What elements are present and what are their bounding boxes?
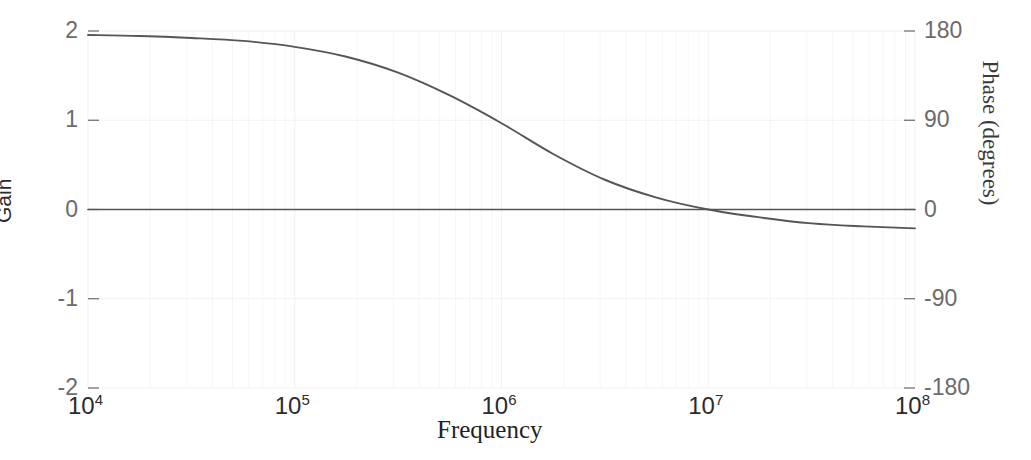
right-tick-label: -180: [924, 376, 994, 399]
x-axis-title: Frequency: [437, 417, 543, 442]
x-tick-label: 108: [895, 394, 930, 418]
left-tick-label: 1: [16, 108, 78, 131]
x-tick-exponent: 8: [922, 391, 930, 408]
x-tick-exponent: 4: [95, 391, 103, 408]
left-axis-title: Gain: [0, 197, 71, 223]
bode-plot-figure: 210-1-2 180900-90-180 104105106107108 Ga…: [0, 0, 1031, 460]
left-tick-label: -1: [16, 287, 78, 310]
x-tick-label: 104: [68, 394, 103, 418]
right-tick-label: 180: [924, 19, 994, 42]
x-tick-mantissa: 10: [275, 392, 302, 419]
x-tick-mantissa: 10: [68, 392, 95, 419]
right-tick-label: -90: [924, 287, 994, 310]
x-tick-label: 106: [482, 394, 517, 418]
x-tick-mantissa: 10: [482, 392, 509, 419]
right-axis-title: Phase (degrees): [977, 43, 1003, 223]
x-tick-exponent: 7: [715, 391, 723, 408]
x-tick-exponent: 5: [301, 391, 309, 408]
x-tick-label: 107: [688, 394, 723, 418]
x-tick-label: 105: [275, 394, 310, 418]
x-tick-exponent: 6: [508, 391, 516, 408]
left-tick-label: 2: [16, 19, 78, 42]
x-tick-mantissa: 10: [895, 392, 922, 419]
x-tick-mantissa: 10: [688, 392, 715, 419]
